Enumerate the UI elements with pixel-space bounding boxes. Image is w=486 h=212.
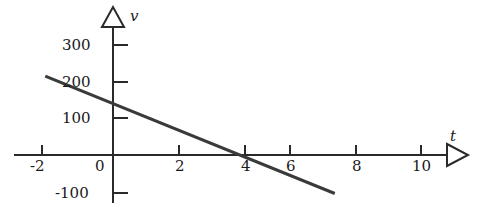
- y-tick-label-neg100: -100: [55, 184, 89, 202]
- v-axis-arrowhead: [102, 7, 124, 27]
- t-axis-arrowhead: [447, 144, 468, 166]
- x-tick-label-neg2: -2: [30, 157, 45, 175]
- t-axis-label: t: [450, 127, 456, 145]
- x-tick-label-6: 6: [286, 157, 296, 175]
- chart-canvas: [0, 0, 486, 212]
- y-tick-label-100: 100: [62, 109, 91, 127]
- y-tick-label-200: 200: [62, 73, 91, 91]
- v-axis-ticks: [113, 45, 128, 193]
- y-tick-label-300: 300: [62, 36, 91, 54]
- velocity-time-chart: 300 200 100 0 -100 -2 2 4 6 8 10 v t: [0, 0, 486, 212]
- t-axis-ticks: [42, 145, 421, 155]
- v-axis-label: v: [130, 7, 138, 25]
- x-tick-label-8: 8: [352, 157, 362, 175]
- y-tick-label-0: 0: [95, 157, 105, 175]
- x-tick-label-4: 4: [241, 157, 251, 175]
- velocity-line: [45, 76, 335, 193]
- x-tick-label-10: 10: [412, 157, 431, 175]
- x-tick-label-2: 2: [175, 157, 185, 175]
